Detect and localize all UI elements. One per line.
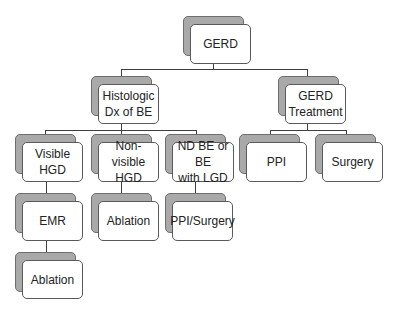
- node-nonvisible-hgd: Non-visible HGD: [91, 134, 152, 174]
- connector-emr-to-ablation: [46, 241, 47, 252]
- node-box: Ablation: [98, 201, 159, 241]
- node-label: Non-visible HGD: [99, 138, 158, 186]
- node-label: Ablation: [107, 213, 150, 229]
- node-ablation-nonvisible: Ablation: [91, 193, 152, 233]
- connector-visible-to-emr: [46, 182, 47, 193]
- node-box: Histologic Dx of BE: [98, 84, 159, 124]
- node-gerd: GERD: [183, 16, 244, 56]
- connector-treatment-bar: [270, 130, 347, 131]
- node-box: PPI: [246, 142, 307, 182]
- node-label: Visible HGD: [23, 146, 82, 178]
- node-label: Surgery: [331, 154, 373, 170]
- node-box: Surgery: [322, 142, 383, 182]
- connector-treatment-down: [307, 123, 308, 130]
- connector-level1-bar: [121, 69, 308, 70]
- node-label: PPI: [267, 154, 286, 170]
- connector-histologic-down: [121, 123, 122, 130]
- node-label: EMR: [39, 213, 66, 229]
- node-box: Visible HGD: [22, 142, 83, 182]
- node-histologic-dx-of-be: Histologic Dx of BE: [91, 76, 152, 116]
- node-gerd-treatment: GERD Treatment: [278, 76, 339, 116]
- node-label: Ablation: [31, 272, 74, 288]
- node-label: GERD Treatment: [288, 88, 342, 120]
- connector-to-treatment: [307, 69, 308, 76]
- node-emr: EMR: [15, 193, 76, 233]
- node-label: ND BE or BE with LGD: [173, 138, 233, 186]
- node-box: GERD Treatment: [285, 84, 346, 124]
- node-box: PPI/Surgery: [172, 201, 233, 241]
- node-box: GERD: [190, 24, 251, 64]
- node-ablation-after-emr: Ablation: [15, 252, 76, 292]
- node-ndbe-or-be-with-lgd: ND BE or BE with LGD: [165, 134, 226, 174]
- node-label: Histologic Dx of BE: [102, 88, 154, 120]
- node-box: Non-visible HGD: [98, 142, 159, 182]
- connector-to-histologic: [121, 69, 122, 76]
- node-label: PPI/Surgery: [170, 213, 235, 229]
- node-box: EMR: [22, 201, 83, 241]
- node-ppi-surgery: PPI/Surgery: [165, 193, 226, 233]
- node-visible-hgd: Visible HGD: [15, 134, 76, 174]
- node-ppi: PPI: [239, 134, 300, 174]
- node-surgery: Surgery: [315, 134, 376, 174]
- node-box: Ablation: [22, 260, 83, 299]
- node-label: GERD: [203, 36, 238, 52]
- node-box: ND BE or BE with LGD: [172, 142, 234, 182]
